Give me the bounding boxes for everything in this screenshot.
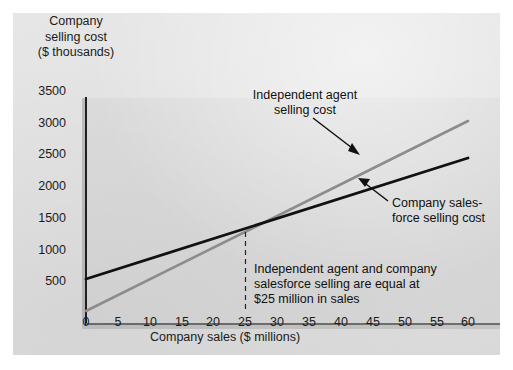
x-tick-55: 55 bbox=[430, 315, 444, 329]
annotation-breakeven-line-3: $25 million in sales bbox=[254, 292, 437, 307]
annotation-independent-agent-line-1: Independent agent bbox=[253, 88, 357, 103]
x-tick-50: 50 bbox=[398, 315, 412, 329]
annotation-company-salesforce-line-2: force selling cost bbox=[392, 211, 485, 226]
y-tick-2500: 2500 bbox=[6, 147, 66, 161]
y-tick-500: 500 bbox=[6, 274, 66, 288]
annotation-breakeven-line-2: salesforce selling are equal at bbox=[254, 277, 437, 292]
x-tick-35: 35 bbox=[302, 315, 316, 329]
y-tick-2000: 2000 bbox=[6, 179, 66, 193]
x-tick-0: 0 bbox=[83, 315, 90, 329]
annotation-independent-agent-line-2: selling cost bbox=[253, 103, 357, 118]
annotation-independent-agent: Independent agent selling cost bbox=[253, 88, 357, 118]
annotation-company-salesforce-line-1: Company sales- bbox=[392, 196, 485, 211]
x-tick-15: 15 bbox=[175, 315, 189, 329]
chart-figure: Company selling cost ($ thousands) 3500 … bbox=[0, 0, 513, 370]
annotation-company-salesforce: Company sales- force selling cost bbox=[392, 196, 485, 226]
x-tick-5: 5 bbox=[115, 315, 122, 329]
annotation-breakeven-line-1: Independent agent and company bbox=[254, 262, 437, 277]
x-axis-title: Company sales ($ millions) bbox=[150, 330, 300, 344]
x-tick-40: 40 bbox=[334, 315, 348, 329]
y-axis-line bbox=[85, 97, 87, 325]
x-tick-25: 25 bbox=[238, 315, 252, 329]
y-axis-tick-labels: 3500 3000 2500 2000 1500 1000 500 bbox=[0, 0, 66, 370]
y-tick-3500: 3500 bbox=[6, 84, 66, 98]
y-tick-3000: 3000 bbox=[6, 116, 66, 130]
x-tick-60: 60 bbox=[461, 315, 475, 329]
y-tick-1500: 1500 bbox=[6, 211, 66, 225]
x-tick-45: 45 bbox=[366, 315, 380, 329]
x-tick-30: 30 bbox=[270, 315, 284, 329]
x-tick-10: 10 bbox=[143, 315, 157, 329]
annotation-breakeven-note: Independent agent and company salesforce… bbox=[254, 262, 437, 307]
x-tick-20: 20 bbox=[206, 315, 220, 329]
y-tick-1000: 1000 bbox=[6, 243, 66, 257]
